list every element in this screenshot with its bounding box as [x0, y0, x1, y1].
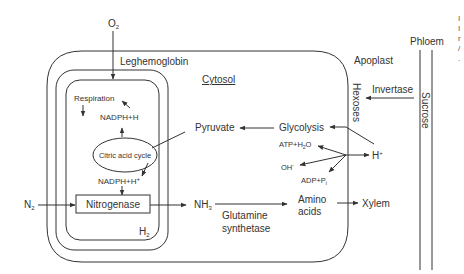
glutamine-label: Glutamine [222, 210, 268, 221]
respiration-label: Respiration [74, 94, 114, 103]
hexoses-to-h-line [346, 127, 374, 144]
n2-label: N2 [24, 199, 35, 211]
to-oh-arrow [300, 155, 346, 165]
apoplast-label: Apoplast [354, 55, 393, 66]
cytosol-boundary [47, 51, 348, 262]
xylem-label: Xylem [362, 198, 390, 209]
to-atp-arrow [318, 146, 346, 155]
fragment-3: r [458, 34, 461, 44]
adp-pi-label: ADP+Pi [301, 176, 327, 186]
fragment-4: / [458, 44, 461, 54]
to-adp-arrow [329, 155, 346, 172]
invertase-label: Invertase [372, 84, 414, 95]
nadph-bottom-label: NADPH+H+ [98, 176, 140, 186]
nadph-to-respiration-arrow [122, 101, 130, 108]
nitrogenase-label: Nitrogenase [86, 199, 140, 210]
sucrose-label: Sucrose [420, 92, 431, 129]
fragment-1: I [458, 14, 461, 24]
leghemoglobin-label: Leghemoglobin [120, 56, 188, 67]
acids-label: acids [298, 206, 321, 217]
cropped-caption-fragment: I I r / . [458, 14, 461, 64]
phloem-label: Phloem [410, 36, 444, 47]
glycolysis-label: Glycolysis [279, 122, 324, 133]
hexoses-label: Hexoses [351, 83, 362, 122]
citric-acid-cycle-label: Citric acid cycle [99, 151, 151, 160]
bacteroid-boundary [66, 80, 159, 240]
h2-label: H2 [139, 226, 150, 238]
fragment-5: . [458, 54, 461, 64]
nitrogen-fixation-diagram: O2 Leghemoglobin Cytosol Apoplast Phloem… [0, 0, 464, 274]
atp-h2o-label: ATP+H2O [279, 140, 312, 150]
cytosol-label: Cytosol [202, 74, 235, 85]
nadph-top-label: NADPH+H [100, 113, 139, 122]
oh-label: OH- [281, 162, 294, 172]
nh3-label: NH3 [194, 199, 212, 211]
pyruvate-label: Pyruvate [195, 122, 235, 133]
amino-label: Amino [298, 194, 327, 205]
o2-label: O2 [108, 18, 120, 30]
synthetase-label: synthetase [222, 223, 271, 234]
h-plus-label: H+ [372, 150, 383, 161]
fragment-2: I [458, 24, 461, 34]
